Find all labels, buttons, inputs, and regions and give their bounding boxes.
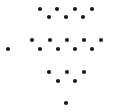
dot xyxy=(73,47,77,51)
dot xyxy=(82,70,86,74)
dot-pattern-diagram xyxy=(0,0,115,112)
dot xyxy=(64,15,68,19)
dot xyxy=(6,47,10,51)
dot-pattern-canvas xyxy=(0,0,115,112)
dot xyxy=(90,47,94,51)
dot xyxy=(38,47,42,51)
bottom-group xyxy=(47,70,86,83)
dot xyxy=(55,7,59,11)
dot xyxy=(47,15,51,19)
middle-group xyxy=(30,38,103,51)
dot xyxy=(82,38,86,42)
dot xyxy=(38,7,42,11)
isolated-left xyxy=(6,47,10,51)
dot xyxy=(56,47,60,51)
dot xyxy=(65,38,69,42)
dot xyxy=(64,101,68,105)
top-group xyxy=(38,7,94,19)
dot xyxy=(99,38,103,42)
dot xyxy=(47,70,51,74)
isolated-bottom xyxy=(64,101,68,105)
dot xyxy=(30,38,34,42)
dot xyxy=(48,38,52,42)
dot xyxy=(73,79,77,83)
dot xyxy=(90,7,94,11)
dot xyxy=(73,7,77,11)
dot xyxy=(56,79,60,83)
dot xyxy=(81,15,85,19)
dot xyxy=(65,70,69,74)
